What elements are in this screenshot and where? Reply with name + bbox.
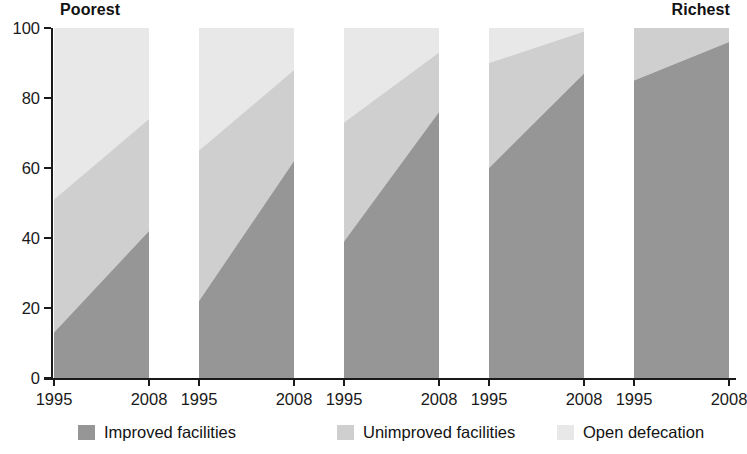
- x-axis-tick-label-p2-1995: 1995: [181, 390, 218, 409]
- x-axis-tick-p2-2008: [293, 378, 295, 386]
- x-axis-tick-label-p1-2008: 2008: [131, 390, 168, 409]
- panel-4-areas: [489, 28, 584, 378]
- x-axis-tick-label-p2-2008: 2008: [276, 390, 313, 409]
- legend-item-improved-facilities: Improved facilities: [78, 424, 236, 441]
- plot-area: [52, 28, 734, 378]
- legend-swatch-open-defecation: [557, 425, 574, 440]
- legend-swatch-unimproved-facilities: [337, 425, 354, 440]
- y-axis-tick-label-40: 40: [0, 229, 40, 248]
- x-axis-tick-label-p4-1995: 1995: [471, 390, 508, 409]
- y-axis-tick-label-100: 100: [0, 19, 40, 38]
- x-axis-tick-label-p3-1995: 1995: [326, 390, 363, 409]
- x-axis-tick-label-p4-2008: 2008: [566, 390, 603, 409]
- x-axis-tick-label-p5-1995: 1995: [616, 390, 653, 409]
- x-axis-tick-p4-2008: [583, 378, 585, 386]
- panel-3-areas: [344, 28, 439, 378]
- y-axis-tick-40: [44, 237, 51, 239]
- x-axis-tick-p3-2008: [438, 378, 440, 386]
- y-axis-tick-80: [44, 97, 51, 99]
- y-axis-tick-label-60: 60: [0, 159, 40, 178]
- x-axis-tick-label-p1-1995: 1995: [36, 390, 73, 409]
- y-axis-tick-labels: 100806040200: [0, 0, 40, 454]
- y-axis-tick-label-80: 80: [0, 89, 40, 108]
- panel-2-areas: [199, 28, 294, 378]
- y-axis-tick-20: [44, 307, 51, 309]
- x-axis-tick-p1-1995: [53, 378, 55, 386]
- legend-label-open-defecation: Open defecation: [583, 424, 704, 441]
- x-axis-tick-label-p3-2008: 2008: [421, 390, 458, 409]
- legend-item-unimproved-facilities: Unimproved facilities: [337, 424, 515, 441]
- legend-swatch-improved-facilities: [78, 425, 95, 440]
- x-axis-tick-p2-1995: [198, 378, 200, 386]
- y-axis-tick-100: [44, 27, 51, 29]
- y-axis-tick-label-0: 0: [0, 369, 40, 388]
- legend-item-open-defecation: Open defecation: [557, 424, 704, 441]
- x-axis-tick-p3-1995: [343, 378, 345, 386]
- panel-5-areas: [634, 28, 729, 378]
- panel-label-richest: Richest: [672, 1, 731, 19]
- x-axis-tick-p4-1995: [488, 378, 490, 386]
- legend-label-improved-facilities: Improved facilities: [104, 424, 236, 441]
- y-axis-tick-label-20: 20: [0, 299, 40, 318]
- area-improved-facilities: [634, 42, 729, 378]
- panel-label-poorest: Poorest: [60, 1, 120, 19]
- x-axis-tick-p5-1995: [633, 378, 635, 386]
- y-axis-tick-60: [44, 167, 51, 169]
- x-axis-tick-p5-2008: [728, 378, 730, 386]
- legend-label-unimproved-facilities: Unimproved facilities: [363, 424, 515, 441]
- panel-1-areas: [54, 28, 149, 378]
- x-axis-tick-p1-2008: [148, 378, 150, 386]
- x-axis-tick-label-p5-2008: 2008: [711, 390, 747, 409]
- chart-legend: Improved facilities Unimproved facilitie…: [0, 424, 738, 450]
